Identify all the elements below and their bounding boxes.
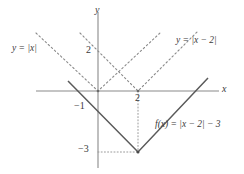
x-tick-label-2: 2 <box>135 93 140 103</box>
y-tick-label-minus-1: −1 <box>74 101 85 111</box>
vertex-marker-abs-x <box>97 90 100 93</box>
curve-f-of-x <box>68 78 208 152</box>
x-axis-label: x <box>222 84 226 94</box>
vertex-marker-f <box>137 151 140 154</box>
graph-figure: x y 2 −1 −3 2 y = |x| y = |x − 2| f(x) =… <box>0 0 244 174</box>
y-axis-label: y <box>95 5 99 15</box>
graph-canvas <box>0 0 244 174</box>
equation-label-f-of-x: f(x) = |x − 2| − 3 <box>155 120 221 130</box>
y-tick-label-minus-3: −3 <box>78 144 89 154</box>
equation-label-y-abs-x: y = |x| <box>12 44 37 54</box>
y-tick-label-2: 2 <box>86 45 91 55</box>
equation-label-y-abs-x-minus-2: y = |x − 2| <box>176 36 217 46</box>
